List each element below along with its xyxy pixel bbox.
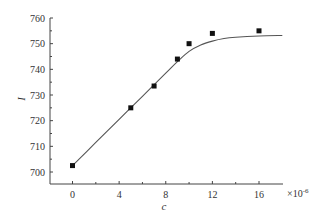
data-point [70,163,75,168]
x-tick-label: 8 [163,189,168,200]
chart: 7007107207307407507600481216 I c ×10-6 [0,0,319,222]
y-tick-label: 730 [30,90,45,101]
y-tick-label: 710 [30,141,45,152]
data-point [257,28,262,33]
data-point [128,105,133,110]
x-axis-label: c [162,200,167,212]
x-tick-label: 16 [254,189,264,200]
x-axis-multiplier: ×10-6 [287,187,309,199]
x-tick-label: 12 [207,189,217,200]
y-tick-label: 760 [30,13,45,24]
data-point [152,84,157,89]
y-tick-label: 750 [30,38,45,49]
data-point [175,57,180,62]
data-point [187,41,192,46]
y-tick-label: 700 [30,167,45,178]
y-tick-label: 720 [30,115,45,126]
axes: 7007107207307407507600481216 [30,13,283,201]
x-tick-label: 0 [70,189,75,200]
y-tick-label: 740 [30,64,45,75]
data-point [210,31,215,36]
fit-curve [73,35,283,165]
data-points [70,28,262,168]
x-tick-label: 4 [117,189,122,200]
y-axis-label: I [15,96,27,102]
